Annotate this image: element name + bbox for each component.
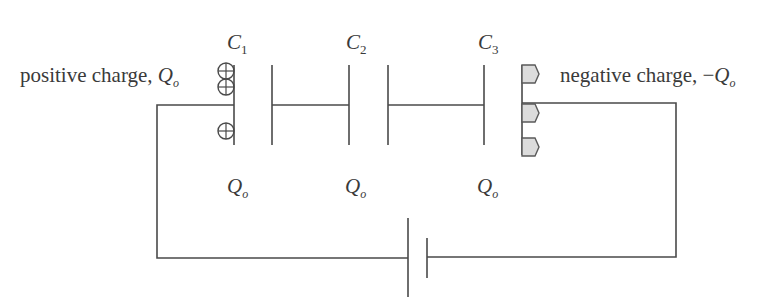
capacitor-c1: [234, 65, 272, 145]
capacitor-c3: [484, 65, 522, 155]
capacitor-c2: [349, 65, 388, 145]
positive-charges: [218, 63, 234, 139]
charge-label-c3: Qo: [477, 174, 498, 201]
negative-charge-label: negative charge, −Qo: [560, 63, 735, 90]
series-capacitor-circuit: C1 C2 C3 Qo Qo Qo positive charge, Qo ne…: [0, 0, 779, 305]
right-wire: [427, 103, 676, 257]
pentagon-icon: [522, 138, 539, 156]
left-wire: [157, 105, 408, 258]
pentagon-icon: [522, 104, 539, 122]
label-c2: C2: [346, 30, 367, 57]
label-c3: C3: [478, 30, 499, 57]
pentagon-icon: [522, 65, 539, 83]
positive-charge-label: positive charge, Qo: [20, 63, 179, 90]
battery: [408, 218, 427, 297]
label-c1: C1: [227, 30, 248, 57]
charge-label-c1: Qo: [227, 174, 248, 201]
circle-plus-icon: [218, 123, 234, 139]
circle-plus-icon: [218, 79, 234, 95]
circle-plus-icon: [218, 63, 234, 79]
negative-charges: [522, 65, 539, 156]
charge-label-c2: Qo: [345, 174, 366, 201]
